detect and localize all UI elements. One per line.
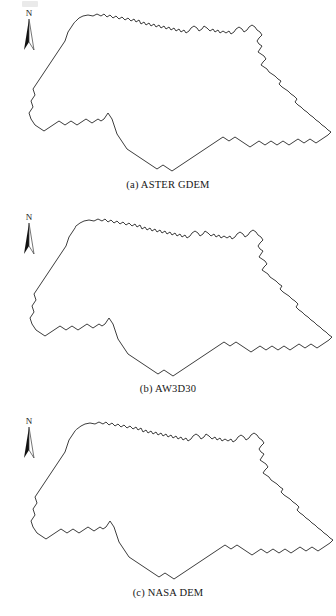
- panel-nasa-dem: N (c) NASA DEM: [0, 408, 336, 616]
- svg-text:N: N: [26, 8, 33, 18]
- panel-aw3d30: N (b) AW3D30: [0, 204, 336, 408]
- panel-aster-gdem: N (a) ASTER GDEM: [0, 0, 336, 204]
- caption-panel-b: (b) AW3D30: [0, 382, 336, 396]
- north-arrow-icon: N: [14, 414, 44, 462]
- caption-panel-c: (c) NASA DEM: [0, 586, 336, 600]
- dem-comparison-figure: N (a) ASTER GDEM N (b) AW3D30: [0, 0, 336, 616]
- map-area-a: N: [0, 0, 336, 178]
- watershed-outline-aster-gdem: [0, 0, 336, 178]
- map-area-b: N: [0, 204, 336, 382]
- svg-text:N: N: [26, 416, 33, 426]
- caption-panel-a: (a) ASTER GDEM: [0, 178, 336, 192]
- watershed-outline-nasa-dem: [0, 408, 336, 586]
- map-area-c: N: [0, 408, 336, 586]
- svg-text:N: N: [26, 212, 33, 222]
- watershed-outline-aw3d30: [0, 204, 336, 382]
- north-arrow-icon: N: [14, 210, 44, 258]
- north-arrow-icon: N: [14, 6, 44, 54]
